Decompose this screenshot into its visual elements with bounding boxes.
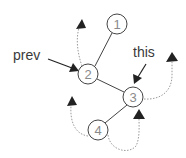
dotted-arrow-from-2 [77, 28, 82, 66]
dotted-arrow-from-3 [144, 62, 172, 99]
dotted-arrows [71, 28, 172, 150]
node-3: 3 [123, 87, 143, 107]
dotted-arrow-from-4-left [71, 106, 88, 136]
node-1-label: 1 [113, 17, 120, 32]
node-3-label: 3 [129, 90, 136, 105]
prev-arrow-shaft [48, 59, 72, 68]
node-2: 2 [78, 64, 98, 84]
arrowhead-4-to-3 [133, 109, 145, 119]
this-arrow-shaft [138, 64, 146, 77]
arrowhead-3-up [166, 52, 178, 62]
this-arrow-head [133, 74, 142, 84]
this-label: this [133, 44, 155, 60]
node-4-label: 4 [94, 123, 101, 138]
prev-label: prev [13, 47, 40, 63]
edge-1-2 [95, 33, 112, 66]
dotted-arrow-from-4-to-3 [108, 118, 139, 150]
edge-2-3 [97, 79, 124, 92]
arrowhead-4-up [67, 96, 77, 106]
node-4: 4 [88, 120, 108, 140]
node-2-label: 2 [84, 67, 91, 82]
edge-3-4 [105, 105, 127, 123]
node-1: 1 [107, 14, 127, 34]
arrowhead-2-up [76, 19, 86, 29]
tree-diagram: 1 2 3 4 prev this [0, 0, 186, 158]
tree-edges [95, 33, 127, 123]
